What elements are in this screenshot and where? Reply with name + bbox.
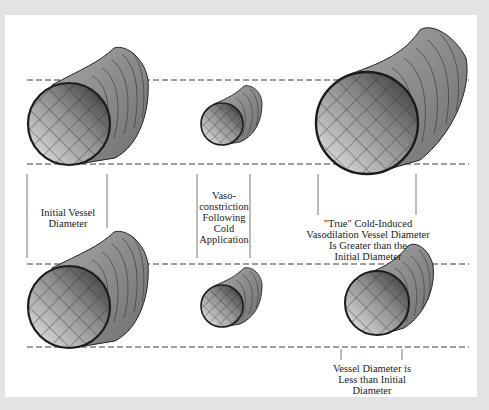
label-less-than-initial: Vessel Diameter is Less than Initial Dia… [326,363,418,396]
label-line: Application [196,234,252,245]
label-line: Is Greater than the [300,240,436,251]
label-initial-diameter: Initial Vessel Diameter [30,207,106,229]
label-true-civd: "True" Cold-Induced Vasodilation Vessel … [300,218,436,262]
label-vasoconstriction: Vaso- constriction Following Cold Applic… [196,190,252,245]
vessel-top-initial [20,47,148,170]
vessel-top-constricted [196,86,262,150]
label-line: "True" Cold-Induced [300,218,436,229]
label-line: Initial Vessel [30,207,106,218]
label-line: Cold [196,223,252,234]
label-line: Vessel Diameter is [326,363,418,374]
label-line: Vasodilation Vessel Diameter [300,229,436,240]
label-line: Diameter [30,218,106,229]
vessel-bottom-initial [20,231,148,352]
label-line: Vaso- [196,190,252,201]
vessel-bottom-constricted [196,268,262,332]
label-line: Less than Initial [326,374,418,385]
label-line: Diameter [326,385,418,396]
label-line: Initial Diameter [300,251,436,262]
label-line: Following [196,212,252,223]
vessel-top-true-civd [310,28,467,180]
label-line: constriction [196,201,252,212]
